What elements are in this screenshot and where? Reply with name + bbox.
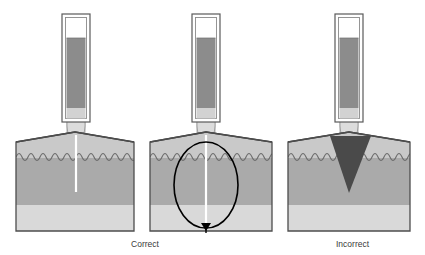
syringe-fluid-column: [340, 38, 359, 108]
diagram-canvas: Correct: [0, 0, 425, 255]
tissue-bottom-layer: [288, 205, 410, 231]
tissue-block: [288, 132, 414, 231]
panel-caption-incorrect: Incorrect: [336, 239, 370, 249]
syringe-fluid-column: [197, 38, 216, 108]
syringe-assembly: [192, 14, 220, 140]
syringe-fluid-lower-light: [67, 108, 86, 119]
panel-correct-middle: [150, 14, 276, 233]
syringe-assembly: [335, 14, 363, 140]
injection-technique-diagram: Correct: [0, 0, 425, 255]
tissue-bottom-layer: [16, 205, 134, 231]
panel-correct-left: Correct: [16, 14, 160, 249]
syringe-fluid-lower-light: [197, 108, 216, 119]
tissue-middle-layer: [150, 158, 272, 205]
syringe-fluid-column: [67, 38, 86, 108]
panel-caption-correct: Correct: [131, 239, 160, 249]
panel-incorrect: Incorrect: [288, 14, 414, 249]
tissue-block: [150, 132, 276, 231]
tissue-block: [16, 132, 136, 231]
syringe-fluid-lower-light: [340, 108, 359, 119]
syringe-assembly: [62, 14, 90, 140]
